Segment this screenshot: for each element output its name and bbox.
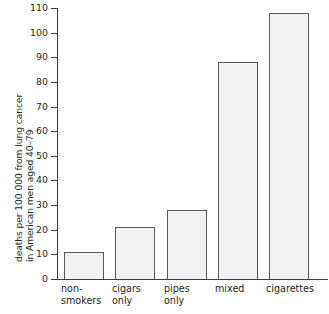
y-axis-tick-label: 10 [26, 250, 48, 259]
bar-non-smokers[interactable] [64, 252, 104, 279]
y-axis-tick-label: 80 [26, 77, 48, 86]
y-axis-tick-label: 100 [26, 28, 48, 37]
y-axis-tick-label: 70 [26, 102, 48, 111]
bar-cigarettes[interactable] [269, 13, 309, 279]
bar-cigars-only[interactable] [115, 227, 155, 279]
y-axis-tick-label: 30 [26, 200, 48, 209]
x-axis-label-non-smokers: non- smokers [61, 283, 101, 308]
y-axis-tick-label: 20 [26, 225, 48, 234]
bar-chart: deaths per 100 000 from lung cancer in A… [0, 0, 329, 314]
bar-mixed[interactable] [218, 62, 258, 279]
y-axis-tick-label: 50 [26, 151, 48, 160]
x-axis-line [57, 279, 328, 280]
x-axis-label-cigarettes: cigarettes [266, 283, 314, 295]
y-axis-title-line-1: deaths per 100 000 from lung cancer [13, 94, 24, 262]
y-axis-tick-label: 110 [26, 3, 48, 12]
x-axis-label-cigars-only: cigars only [112, 283, 141, 308]
x-axis-label-mixed: mixed [215, 283, 244, 295]
bar-pipes-only[interactable] [167, 210, 207, 279]
y-axis-tick-labels: 0102030405060708090100110 [26, 0, 48, 290]
y-axis-tick-label: 0 [26, 274, 48, 283]
plot-area [57, 8, 329, 279]
x-axis-category-labels: non- smokerscigars onlypipes onlymixedci… [57, 283, 329, 314]
x-axis-label-pipes-only: pipes only [164, 283, 190, 308]
y-axis-tick-label: 40 [26, 176, 48, 185]
y-axis-tick-label: 60 [26, 126, 48, 135]
y-axis-tick-label: 90 [26, 53, 48, 62]
